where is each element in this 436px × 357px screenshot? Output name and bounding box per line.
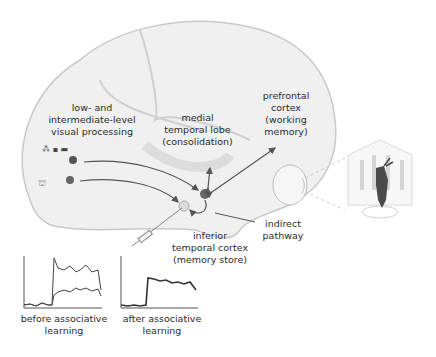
circus-tent-icon: [348, 140, 412, 218]
neuron-itc-dark: [200, 189, 210, 199]
svg-text:⛫: ⛫: [38, 178, 46, 188]
neuron-lower-left: [66, 176, 74, 184]
chart-before: [24, 256, 102, 308]
label-indirect-pathway: indirect pathway: [255, 218, 311, 242]
svg-text:⁂ ▪ ▬: ⁂ ▪ ▬: [42, 144, 68, 154]
label-medial-temporal-lobe: medial temporal lobe (consolidation): [155, 112, 240, 148]
neuron-top-left: [69, 156, 77, 164]
label-visual-processing: low- and intermediate-level visual proce…: [32, 102, 152, 138]
label-before-learning: before associative learning: [14, 313, 114, 337]
label-inferior-temporal-cortex: inferior temporal cortex (memory store): [160, 230, 260, 266]
brain-diagram: ⁂ ▪ ▬ ⛫: [0, 0, 436, 357]
label-after-learning: after associative learning: [112, 313, 212, 337]
eye: [273, 165, 307, 205]
label-prefrontal-cortex: prefrontal cortex (working memory): [254, 90, 318, 138]
